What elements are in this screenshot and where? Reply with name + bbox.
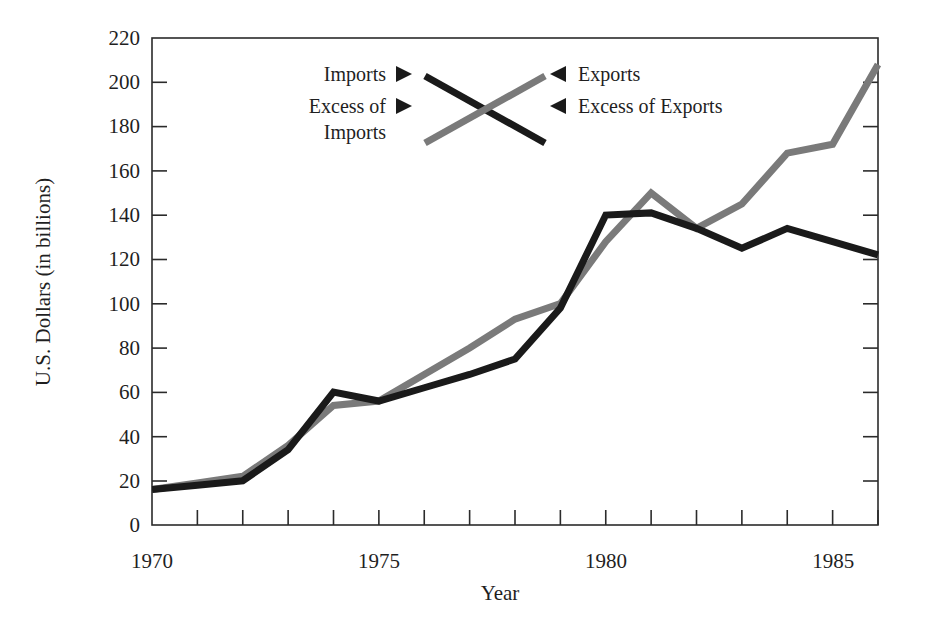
triangle-right-icon-excess-imports	[396, 98, 412, 114]
y-label-180: 180	[109, 114, 141, 138]
plot-frame	[152, 38, 878, 525]
y-label-120: 120	[109, 247, 141, 271]
y-label-140: 140	[109, 203, 141, 227]
x-axis-title: Year	[481, 581, 520, 605]
y-axis-ticks	[152, 82, 167, 481]
legend-label-excess-of-imports-line2: Imports	[324, 121, 386, 144]
triangle-left-icon-exports	[550, 66, 566, 82]
legend: Imports Excess of Imports Exports Excess…	[309, 63, 723, 144]
y-label-0: 0	[130, 513, 141, 537]
series-line-imports	[152, 213, 878, 490]
y-label-60: 60	[119, 380, 140, 404]
y-label-80: 80	[119, 336, 140, 360]
x-axis-ticks	[197, 510, 878, 525]
triangle-left-icon-excess-exports	[550, 98, 566, 114]
x-label-1985: 1985	[812, 549, 854, 573]
y-label-200: 200	[109, 70, 141, 94]
line-chart: 220 200 180 160 140 120 100 80 60 40 20 …	[0, 0, 928, 631]
y-label-40: 40	[119, 425, 140, 449]
legend-label-excess-of-exports: Excess of Exports	[578, 95, 723, 118]
y-axis-tick-labels: 220 200 180 160 140 120 100 80 60 40 20 …	[109, 26, 141, 537]
legend-label-excess-of-imports-line1: Excess of	[309, 95, 387, 117]
x-label-1970: 1970	[131, 549, 173, 573]
x-axis-tick-labels: 1970 1975 1980 1985	[131, 549, 854, 573]
y-label-100: 100	[109, 292, 141, 316]
y-axis-ticks-right	[863, 82, 878, 481]
y-label-20: 20	[119, 469, 140, 493]
chart-figure: 220 200 180 160 140 120 100 80 60 40 20 …	[0, 0, 928, 631]
legend-label-imports: Imports	[324, 63, 386, 86]
y-label-220: 220	[109, 26, 141, 50]
y-label-160: 160	[109, 159, 141, 183]
x-label-1975: 1975	[358, 549, 400, 573]
y-axis-title: U.S. Dollars (in billions)	[31, 178, 55, 386]
x-label-1980: 1980	[585, 549, 627, 573]
triangle-right-icon-imports	[396, 66, 412, 82]
legend-label-exports: Exports	[578, 63, 640, 86]
